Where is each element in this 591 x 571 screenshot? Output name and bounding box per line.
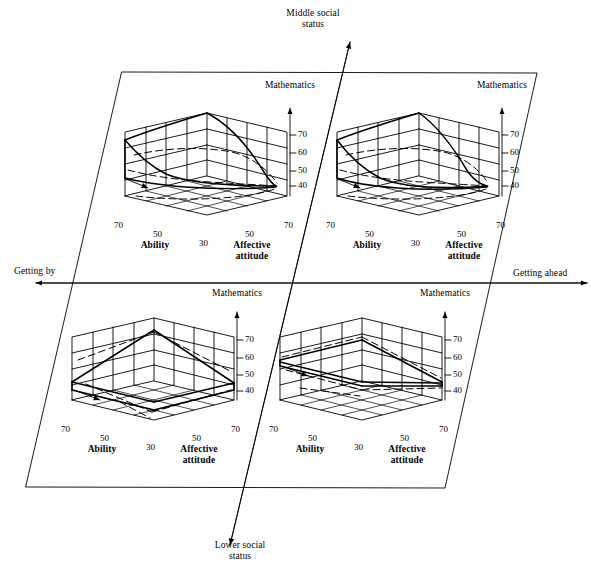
panel-top-right-z-axis [502,108,508,196]
panel-top-left-z-tick-40: 40 [298,180,307,190]
panel-bottom-right-y-title: Affective attitude [388,444,425,465]
panel-top-right-x-title: Ability [353,240,382,251]
panel-top-right-z-tick-60: 60 [510,147,519,157]
panel-top-left-x-title: Ability [141,240,170,251]
panel-bottom-left-z-tick-50: 50 [245,369,254,379]
panel-bottom-right-z-tick-60: 60 [453,352,462,362]
panel-top-left-x-tick-70: 70 [114,220,123,230]
panel-top-left-x-tick-30: 30 [199,238,208,248]
panel-bottom-left-z-title: Mathematics [212,288,262,299]
panel-top-right-y-tick-50: 50 [457,229,466,239]
panel-top-left-x-tick-50: 50 [153,229,162,239]
panel-top-right-z-title: Mathematics [477,80,527,91]
panel-bottom-left-x-title: Ability [88,444,117,455]
panel-bottom-right-y-tick-70: 70 [439,424,448,434]
panel-bottom-left-y-tick-50: 50 [192,433,201,443]
panel-bottom-right-z-title: Mathematics [420,288,470,299]
panel-bottom-right-z-tick-70: 70 [453,334,462,344]
panel-bottom-left-z-tick-60: 60 [245,352,254,362]
panel-bottom-right-z-tick-50: 50 [453,369,462,379]
panel-bottom-right-y-tick-50: 50 [400,433,409,443]
panel-bottom-right-dashed [282,337,441,396]
panel-top-left-y-tick-50: 50 [245,229,254,239]
axis-label-middle-social-status: Middle social status [286,8,339,29]
panel-bottom-left-z-tick-70: 70 [245,334,254,344]
panel-top-left-z-tick-60: 60 [298,147,307,157]
axis-label-getting-ahead: Getting ahead [513,268,567,279]
figure-canvas: Middle social status Lower social status… [0,0,591,571]
panel-bottom-left-x-tick-70: 70 [61,424,70,434]
panel-top-right-z-tick-40: 40 [510,180,519,190]
panel-top-left-z-title: Mathematics [265,80,315,91]
panel-bottom-right-x-tick-70: 70 [269,424,278,434]
panel-bottom-left-y-title: Affective attitude [180,444,217,465]
panel-bottom-left [72,318,234,420]
panel-bottom-left-x-tick-50: 50 [100,433,109,443]
panel-top-right-y-tick-70: 70 [496,220,505,230]
panel-top-left-y-tick-70: 70 [284,220,293,230]
panel-bottom-right-x-tick-30: 30 [354,442,363,452]
axis-label-lower-social-status: Lower social status [215,540,266,561]
panel-top-right-x-tick-50: 50 [365,229,374,239]
panel-bottom-right-z-tick-40: 40 [453,385,462,395]
panel-top-right-y-title: Affective attitude [445,240,482,261]
panel-bottom-right-x-title: Ability [296,444,325,455]
panel-bottom-left-dashed [78,332,232,418]
panel-top-left-y-title: Affective attitude [233,240,270,261]
panel-top-right-z-tick-70: 70 [510,129,519,139]
panel-top-right-x-tick-30: 30 [411,238,420,248]
panel-top-left-z-axis [290,108,296,196]
panel-bottom-right-z-axis [445,312,451,400]
panel-top-right [337,113,499,215]
panel-top-right-z-tick-50: 50 [510,165,519,175]
panel-top-right-x-tick-70: 70 [326,220,335,230]
axis-label-getting-by: Getting by [14,266,55,277]
panel-bottom-left-x-tick-30: 30 [146,442,155,452]
panel-top-left-z-tick-50: 50 [298,165,307,175]
panel-top-left-z-tick-70: 70 [298,129,307,139]
panel-bottom-left-z-tick-40: 40 [245,385,254,395]
outer-parallelogram [26,72,537,488]
panel-bottom-left-y-tick-70: 70 [231,424,240,434]
panel-bottom-right-x-tick-50: 50 [308,433,317,443]
panel-bottom-left-surface [72,330,234,410]
panel-bottom-left-z-axis [237,312,243,400]
